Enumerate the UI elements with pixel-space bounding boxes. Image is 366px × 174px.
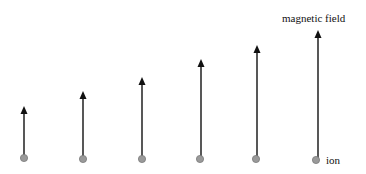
- ion-circle: [20, 154, 27, 161]
- field-arrow: [80, 91, 87, 159]
- ion-circle: [138, 155, 145, 162]
- arrowhead-icon: [80, 91, 87, 99]
- field-arrow: [198, 59, 205, 159]
- ion-circle: [79, 155, 86, 162]
- magnetic-field-diagram: magnetic field ion: [0, 0, 366, 174]
- ion-label: ion: [326, 154, 341, 166]
- field-arrow: [139, 77, 146, 159]
- arrowhead-icon: [254, 45, 261, 53]
- arrowhead-icon: [139, 77, 146, 85]
- field-arrow: [21, 106, 28, 158]
- arrowhead-icon: [315, 30, 322, 38]
- ion-circle: [196, 155, 203, 162]
- arrowhead-icon: [21, 106, 28, 114]
- field-arrows: [21, 30, 322, 159]
- ion-circle: [252, 155, 259, 162]
- field-arrow: [254, 45, 261, 159]
- ion-circle: [312, 156, 319, 163]
- magnetic-field-label: magnetic field: [282, 12, 346, 24]
- field-arrow: [315, 30, 322, 159]
- ions: [20, 154, 319, 163]
- arrowhead-icon: [198, 59, 205, 67]
